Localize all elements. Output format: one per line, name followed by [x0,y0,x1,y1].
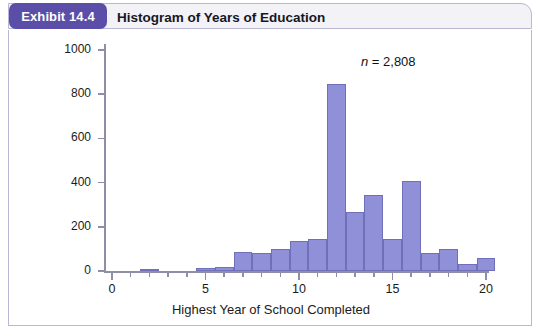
histogram-bar [290,241,309,271]
histogram-bar [140,269,159,271]
histogram-bar [364,195,383,271]
histogram-bar [308,239,327,271]
histogram-plot: 02004006008001000 05101520 n = 2,808 Hig… [9,30,533,326]
x-axis-label: Highest Year of School Completed [9,302,533,317]
histogram-bar [383,239,402,271]
histogram-bar [439,249,458,271]
histogram-bar [271,249,290,271]
histogram-bars [9,30,533,326]
exhibit-header: Exhibit 14.4 Histogram of Years of Educa… [8,3,532,29]
sample-size-value: = 2,808 [368,54,415,69]
histogram-bar [215,267,234,271]
exhibit-title: Histogram of Years of Education [117,4,325,30]
histogram-bar [458,264,477,271]
histogram-bar [477,258,496,271]
histogram-bar [196,268,215,271]
histogram-bar [346,212,365,271]
histogram-bar [402,181,421,271]
chart-panel: 02004006008001000 05101520 n = 2,808 Hig… [8,30,532,326]
histogram-bar [327,84,346,271]
histogram-bar [234,252,253,271]
histogram-bar [421,253,440,271]
exhibit-number-label: Exhibit 14.4 [21,9,94,24]
sample-size-annotation: n = 2,808 [361,54,416,69]
exhibit-number-badge: Exhibit 14.4 [9,3,107,29]
exhibit-container: Exhibit 14.4 Histogram of Years of Educa… [0,0,542,332]
histogram-bar [252,253,271,271]
